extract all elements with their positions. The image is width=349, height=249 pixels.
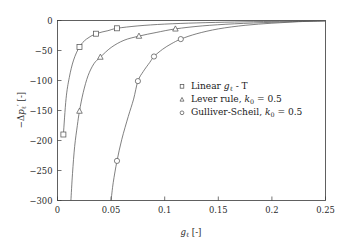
series-marker [61,132,66,137]
chart-figure: 00.050.10.150.20.25−300−250−200−150−100−… [0,0,349,249]
y-tick-label: −100 [29,76,52,86]
x-tick-label: 0.2 [265,205,278,215]
legend-marker-circle [180,111,184,115]
series-marker [114,158,119,163]
y-axis-title-prefix: −Δ [16,115,26,128]
y-tick-label: 0 [47,16,52,26]
figure-background [0,0,349,249]
x-tick-label: 0.25 [316,205,335,215]
x-tick-label: 0.15 [209,205,228,215]
series-marker [94,31,99,36]
y-tick-label: −250 [29,166,52,176]
x-tick-label: 0.1 [158,205,171,215]
series-marker [77,44,82,49]
series-marker [151,54,156,59]
x-tick-label: 0.05 [102,205,121,215]
series-marker [178,37,183,42]
legend-marker-square [180,85,184,89]
x-tick-label: 0 [55,205,60,215]
plot-canvas: 00.050.10.150.20.25−300−250−200−150−100−… [0,0,349,249]
y-tick-label: −150 [29,106,52,116]
y-tick-label: −50 [35,46,53,56]
y-axis-title-unit: [-] [16,92,26,104]
x-axis-title-unit: [-] [189,227,201,237]
series-marker [135,79,140,84]
y-tick-label: −300 [29,196,52,206]
y-tick-label: −200 [29,136,52,146]
series-marker [114,26,119,31]
